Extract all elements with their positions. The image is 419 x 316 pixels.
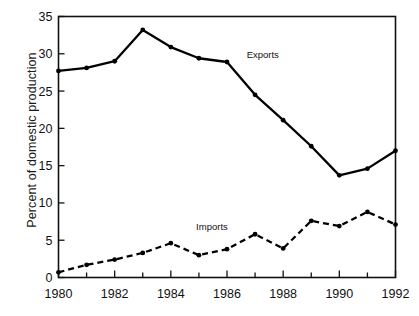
x-tick-label: 1980 xyxy=(45,287,73,301)
y-tick-label: 35 xyxy=(39,10,53,24)
data-point xyxy=(112,257,117,262)
y-tick-label: 30 xyxy=(39,47,53,61)
chart-container: Percent of domestic production 051015202… xyxy=(0,0,419,316)
x-tick-label: 1990 xyxy=(325,287,353,301)
data-point xyxy=(337,173,342,178)
x-tick-label: 1992 xyxy=(382,287,410,301)
y-tick-label: 15 xyxy=(39,159,53,173)
data-point xyxy=(56,69,61,74)
data-point xyxy=(140,28,145,33)
series-line-exports xyxy=(59,30,396,175)
data-point xyxy=(168,241,173,246)
x-tick-label: 1984 xyxy=(157,287,185,301)
x-tick-label: 1988 xyxy=(269,287,297,301)
x-tick-label: 1986 xyxy=(213,287,241,301)
x-tick-label: 1982 xyxy=(101,287,129,301)
data-point xyxy=(253,232,258,237)
data-point xyxy=(365,166,370,171)
x-axis-ticks xyxy=(59,271,396,278)
y-tick-label: 5 xyxy=(46,234,53,248)
data-point xyxy=(84,66,89,71)
y-tick-label: 0 xyxy=(46,271,53,285)
y-axis-ticks xyxy=(59,17,65,278)
y-tick-label: 20 xyxy=(39,122,53,136)
data-point xyxy=(393,148,398,153)
data-point xyxy=(225,247,230,252)
data-series-markers xyxy=(56,28,398,275)
data-point xyxy=(337,224,342,229)
chart-plot: 05101520253035 1980198219841986198819901… xyxy=(0,0,419,316)
data-point xyxy=(84,262,89,267)
data-point xyxy=(225,60,230,65)
data-point xyxy=(112,59,117,64)
data-point xyxy=(197,56,202,61)
plot-frame xyxy=(59,17,396,278)
y-tick-label: 10 xyxy=(39,196,53,210)
data-series-lines xyxy=(59,30,396,272)
data-point xyxy=(309,144,314,149)
data-point xyxy=(168,45,173,50)
x-axis-tick-labels: 1980198219841986198819901992 xyxy=(45,287,410,301)
y-tick-label: 25 xyxy=(39,85,53,99)
data-point xyxy=(253,92,258,97)
data-point xyxy=(365,209,370,214)
data-point xyxy=(393,222,398,227)
data-point xyxy=(281,246,286,251)
y-axis-tick-labels: 05101520253035 xyxy=(39,10,53,285)
data-point xyxy=(281,118,286,123)
data-point xyxy=(140,250,145,255)
data-point xyxy=(309,218,314,223)
series-label-imports: Imports xyxy=(196,221,228,232)
data-point xyxy=(56,270,61,275)
data-point xyxy=(197,253,202,258)
series-label-exports: Exports xyxy=(247,49,279,60)
